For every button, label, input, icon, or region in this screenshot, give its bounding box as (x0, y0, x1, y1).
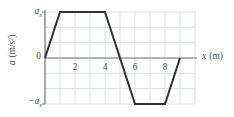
a-x-graph-figure: 2468 as 0 −as a(m/s²) x(m) (0, 0, 234, 117)
y-tick-label-zero: 0 (36, 52, 41, 62)
x-tick-label: 4 (103, 62, 108, 72)
y-tick-label-as: as (35, 7, 42, 17)
y-axis-title: a(m/s²) (8, 35, 18, 66)
x-tick-label: 2 (73, 62, 78, 72)
y-tick-label-neg-as: −as (28, 97, 42, 107)
x-axis-title: x(m) (202, 52, 223, 62)
x-tick-label: 6 (133, 62, 138, 72)
x-tick-label: 8 (163, 62, 168, 72)
